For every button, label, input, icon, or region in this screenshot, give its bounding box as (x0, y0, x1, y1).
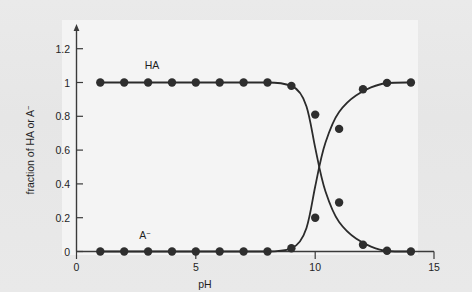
data-point (407, 247, 415, 255)
series-curve-ha (100, 83, 411, 252)
data-point (335, 198, 343, 206)
x-tick-label-5: 5 (193, 261, 199, 273)
x-tick-label-15: 15 (428, 261, 440, 273)
data-point (216, 78, 224, 86)
data-point (383, 247, 391, 255)
data-point (383, 79, 391, 87)
data-point (239, 247, 247, 255)
data-point (144, 78, 152, 86)
y-ticks-group (77, 49, 84, 252)
series-annotation-ha: HA (145, 59, 160, 71)
data-point (407, 78, 415, 86)
data-point (168, 247, 176, 255)
data-point (239, 78, 247, 86)
data-point (263, 78, 271, 86)
y-tick-label-0.4: 0.4 (55, 178, 70, 190)
data-point (96, 247, 104, 255)
y-tick-label-1.2: 1.2 (55, 43, 70, 55)
y-axis-title: fraction of HA or A− (24, 105, 37, 195)
data-point (120, 78, 128, 86)
data-point (168, 78, 176, 86)
y-axis-title-main: fraction of HA or A (24, 110, 36, 195)
data-point (287, 82, 295, 90)
x-ticks-group (77, 252, 435, 260)
y-tick-label-1: 1 (64, 77, 70, 89)
data-point (192, 247, 200, 255)
data-point (335, 125, 343, 133)
x-axis-title: pH (198, 278, 211, 290)
axes-group (74, 24, 434, 252)
y-tick-label-0.8: 0.8 (55, 110, 70, 122)
y-axis-arrow (74, 24, 80, 31)
data-point (144, 247, 152, 255)
figure-canvas: 0 5 10 15 0 0.2 0.4 0.6 0.8 1 1.2 pH fra… (0, 0, 472, 292)
x-tick-label-0: 0 (74, 261, 80, 273)
y-tick-label-0: 0 (64, 246, 70, 258)
data-point (359, 241, 367, 249)
data-point (192, 78, 200, 86)
y-axis-title-superscript: − (24, 105, 33, 110)
data-point (359, 85, 367, 93)
series-curve-a-minus (100, 82, 411, 251)
series-annotation-a-minus-main: A (139, 229, 146, 241)
y-tick-label-0.2: 0.2 (55, 212, 70, 224)
svg-text:fraction of HA or A−: fraction of HA or A− (24, 105, 37, 195)
data-point (216, 247, 224, 255)
data-point (120, 247, 128, 255)
chart-plot: 0 5 10 15 0 0.2 0.4 0.6 0.8 1 1.2 pH fra… (0, 0, 472, 292)
series-annotation-a-minus: A− (139, 229, 151, 242)
data-point (263, 247, 271, 255)
data-point (311, 214, 319, 222)
data-point (287, 244, 295, 252)
svg-text:A−: A− (139, 229, 151, 242)
y-tick-label-0.6: 0.6 (55, 144, 70, 156)
x-tick-label-10: 10 (309, 261, 321, 273)
data-point (96, 78, 104, 86)
series-annotation-a-minus-superscript: − (146, 229, 151, 238)
data-point (311, 110, 319, 118)
